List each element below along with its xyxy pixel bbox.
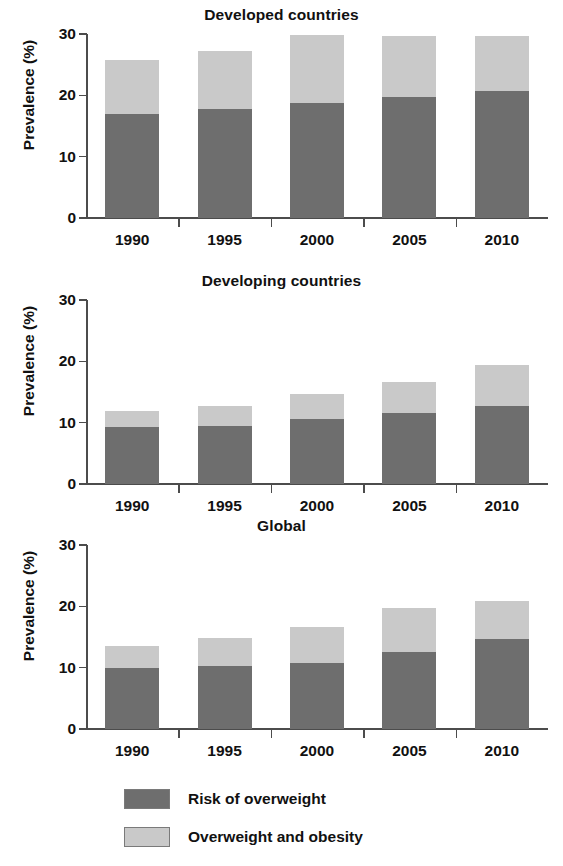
x-axis-tick [456,218,458,227]
bar-segment-overweight-and-obesity [475,601,529,638]
y-axis-tick [79,544,87,546]
y-axis-tick-label: 30 [30,292,76,308]
bar-2000 [290,627,344,729]
x-axis-tick [363,218,365,227]
x-axis-tick-label: 2005 [369,742,449,760]
legend-item-overweight-and-obesity: Overweight and obesity [124,822,544,852]
bar-segment-overweight-and-obesity [382,608,436,652]
x-axis-tick [178,218,180,227]
bar-segment-overweight-and-obesity [105,411,159,427]
legend-label: Overweight and obesity [188,828,363,846]
x-axis-tick-label: 2000 [277,231,357,249]
bar-segment-overweight-and-obesity [290,394,344,419]
y-axis-tick [79,217,87,219]
y-axis-tick-label: 20 [30,354,76,370]
plot-area: 010203019901995200020052010 [86,294,548,484]
bar-segment-risk-of-overweight [105,668,159,729]
bar-segment-risk-of-overweight [382,97,436,218]
bar-segment-risk-of-overweight [475,406,529,484]
x-axis-tick [271,484,273,493]
legend-item-risk-of-overweight: Risk of overweight [124,784,544,814]
x-axis-tick-label: 2005 [369,231,449,249]
y-axis-tick [79,422,87,424]
x-axis-tick-label: 2000 [277,742,357,760]
y-axis-tick-label: 10 [30,660,76,676]
y-axis-tick-label: 30 [30,26,76,42]
x-axis-tick-label: 1995 [185,231,265,249]
x-axis-tick-label: 1995 [185,742,265,760]
bar-2010 [475,601,529,729]
bar-segment-overweight-and-obesity [382,36,436,97]
x-axis-tick-label: 1990 [92,231,172,249]
plot-area: 010203019901995200020052010 [86,28,548,218]
bar-segment-overweight-and-obesity [198,406,252,426]
bar-1995 [198,638,252,729]
y-axis-tick [79,33,87,35]
y-axis-tick-label: 0 [30,210,76,226]
bar-1990 [105,60,159,218]
bar-1995 [198,406,252,484]
y-axis-tick [79,156,87,158]
y-axis-tick-label: 10 [30,149,76,165]
bar-segment-risk-of-overweight [290,419,344,484]
bar-segment-risk-of-overweight [198,109,252,218]
y-axis-tick-label: 20 [30,88,76,104]
y-axis-tick-label: 10 [30,415,76,431]
x-axis-tick [178,484,180,493]
bar-segment-overweight-and-obesity [105,646,159,669]
bar-segment-risk-of-overweight [290,103,344,218]
bar-segment-overweight-and-obesity [382,382,436,413]
legend-label: Risk of overweight [188,790,326,808]
x-axis-tick [271,729,273,738]
plot-area: 010203019901995200020052010 [86,539,548,729]
y-axis-tick-label: 20 [30,599,76,615]
x-axis-tick [271,218,273,227]
x-axis-tick-label: 1990 [92,742,172,760]
x-axis-tick [363,484,365,493]
bar-segment-risk-of-overweight [198,426,252,484]
figure: Developed countries Prevalence (%) 01020… [0,0,563,866]
panel-title: Global [0,517,563,535]
bar-segment-risk-of-overweight [475,91,529,218]
bar-2000 [290,35,344,218]
bar-2005 [382,36,436,218]
x-axis-tick-label: 2010 [462,231,542,249]
chart-legend: Risk of overweight Overweight and obesit… [124,784,544,860]
y-axis-tick-label: 30 [30,537,76,553]
y-axis-tick [79,361,87,363]
bar-segment-overweight-and-obesity [290,627,344,663]
y-axis-tick [79,95,87,97]
bar-segment-overweight-and-obesity [198,638,252,667]
bar-1995 [198,51,252,218]
panel-developed-countries: Developed countries Prevalence (%) 01020… [0,0,563,260]
y-axis-tick [79,667,87,669]
y-axis-tick [79,299,87,301]
panel-title: Developed countries [0,6,563,24]
y-axis-line [86,300,88,484]
x-axis-tick [363,729,365,738]
y-axis-line [86,34,88,218]
bar-2010 [475,36,529,218]
bar-1990 [105,411,159,484]
y-axis-tick-label: 0 [30,476,76,492]
legend-swatch-risk-of-overweight [124,789,170,809]
x-axis-tick [456,729,458,738]
bar-segment-overweight-and-obesity [475,36,529,91]
bar-segment-overweight-and-obesity [290,35,344,103]
bar-2010 [475,365,529,484]
bar-segment-risk-of-overweight [290,663,344,729]
bar-2000 [290,394,344,484]
bar-segment-risk-of-overweight [105,114,159,218]
bar-segment-risk-of-overweight [382,413,436,484]
panel-title: Developing countries [0,272,563,290]
y-axis-tick [79,606,87,608]
x-axis-tick [178,729,180,738]
y-axis-tick [79,483,87,485]
x-axis-tick-label: 2010 [462,742,542,760]
y-axis-tick [79,728,87,730]
y-axis-tick-label: 0 [30,721,76,737]
bar-segment-risk-of-overweight [475,639,529,729]
panel-developing-countries: Developing countries Prevalence (%) 0102… [0,266,563,526]
legend-swatch-overweight-and-obesity [124,827,170,847]
bar-segment-risk-of-overweight [198,666,252,729]
